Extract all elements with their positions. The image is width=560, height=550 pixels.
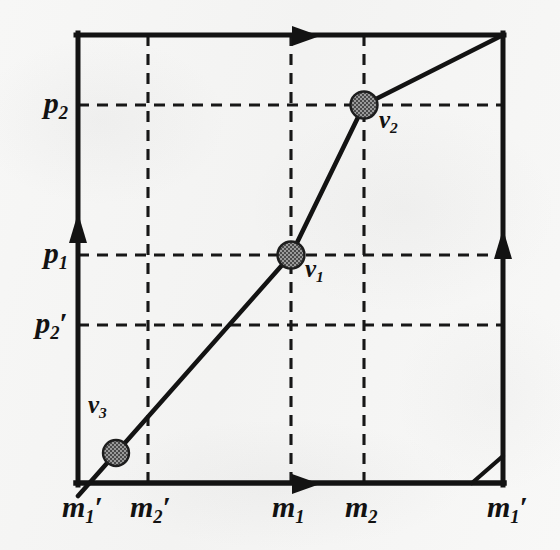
x-axis-label-m1-prime-right-sub: 1 — [510, 506, 519, 527]
corner-tick-mark — [472, 456, 503, 483]
data-point-v1[interactable] — [278, 242, 305, 269]
y-axis-label-p1: p1 — [22, 238, 68, 273]
x-axis-label-m2-prime-base: m — [130, 490, 153, 523]
y-axis-label-p2-prime-sub: 2 — [50, 322, 59, 343]
x-axis-label-m2-prime: m2′ — [130, 492, 171, 527]
y-axis-label-p2: p2 — [22, 88, 68, 123]
y-axis-label-p2-prime-mark: ′ — [60, 306, 68, 339]
data-point-label-v1: v1 — [305, 256, 324, 284]
data-point-label-v2-base: v — [379, 106, 390, 133]
data-point-label-v1-sub: 1 — [316, 268, 324, 285]
y-axis-label-p1-sub: 1 — [59, 252, 68, 273]
x-axis-label-m2-sub: 2 — [368, 506, 377, 527]
data-point-label-v2: v2 — [379, 107, 398, 135]
y-axis-label-p1-base: p — [44, 236, 59, 269]
top-arrow-icon — [292, 26, 320, 46]
x-axis-label-m1-prime-right: m1′ — [487, 492, 528, 527]
x-axis-label-m1-prime-left-mark: ′ — [95, 490, 103, 523]
data-point-v3[interactable] — [103, 440, 129, 466]
x-axis-label-m1-prime-right-mark: ′ — [520, 490, 528, 523]
y-axis-label-p2-prime: p2′ — [16, 308, 68, 343]
figure-container: p2 p1 p2′ m1′ m2′ m1 m2 m1′ v3 v1 v2 — [0, 0, 560, 550]
x-axis-label-m1-prime-left: m1′ — [62, 492, 103, 527]
right-arrow-icon — [494, 229, 512, 259]
x-axis-label-m2: m2 — [345, 492, 378, 527]
data-point-label-v3: v3 — [88, 392, 107, 420]
data-point-label-v3-sub: 3 — [99, 404, 107, 421]
x-axis-label-m2-prime-mark: ′ — [163, 490, 171, 523]
left-arrow-icon — [69, 213, 87, 243]
y-axis-label-p2-base: p — [44, 86, 59, 119]
data-point-label-v1-base: v — [305, 255, 316, 282]
data-point-group — [103, 92, 378, 467]
bottom-arrow-icon — [292, 474, 320, 494]
x-axis-label-m1-sub: 1 — [295, 506, 304, 527]
x-axis-label-m2-prime-sub: 2 — [153, 506, 162, 527]
y-axis-label-p2-sub: 2 — [59, 102, 68, 123]
x-axis-label-m1: m1 — [272, 492, 305, 527]
x-axis-label-m2-base: m — [345, 490, 368, 523]
data-point-label-v2-sub: 2 — [390, 119, 398, 136]
data-point-label-v3-base: v — [88, 391, 99, 418]
data-point-v2[interactable] — [351, 92, 378, 119]
x-axis-label-m1-prime-right-base: m — [487, 490, 510, 523]
line-diagram-svg — [0, 0, 560, 550]
x-axis-label-m1-prime-left-sub: 1 — [85, 506, 94, 527]
x-axis-label-m1-prime-left-base: m — [62, 490, 85, 523]
x-axis-label-m1-base: m — [272, 490, 295, 523]
y-axis-label-p2-prime-base: p — [35, 306, 50, 339]
